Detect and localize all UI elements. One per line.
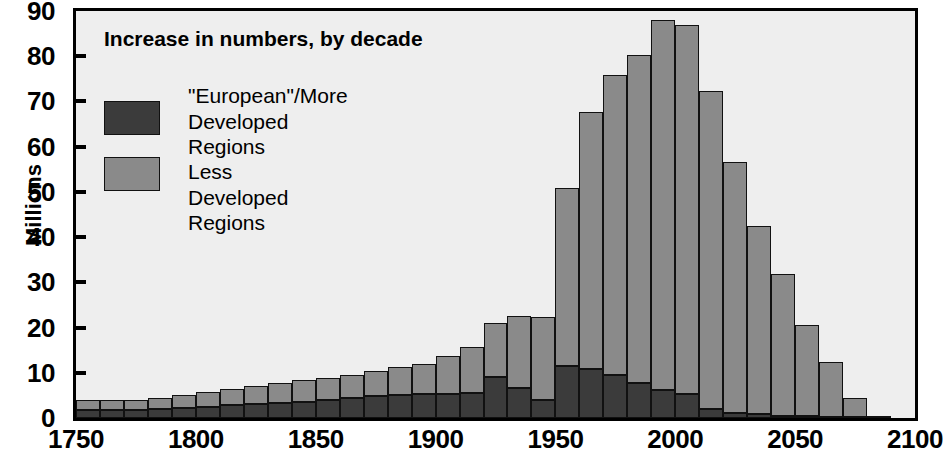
bar-segment-less-developed	[579, 112, 603, 369]
bar-segment-more-developed	[507, 388, 531, 418]
bar-1860	[340, 11, 364, 418]
bar-1960	[579, 11, 603, 418]
bar-segment-more-developed	[148, 409, 172, 418]
bar-segment-less-developed	[220, 389, 244, 406]
bar-segment-less-developed	[388, 367, 412, 394]
bar-1890	[412, 11, 436, 418]
bar-1770	[124, 11, 148, 418]
bar-segment-more-developed	[172, 408, 196, 418]
bar-segment-more-developed	[603, 375, 627, 418]
bar-1900	[436, 11, 460, 418]
y-axis-tick-label: 10	[27, 360, 55, 386]
bar-segment-more-developed	[268, 403, 292, 418]
bar-1880	[388, 11, 412, 418]
y-axis-tick-label: 70	[27, 88, 55, 114]
x-axis-tick-label: 2050	[767, 424, 823, 455]
bar-segment-more-developed	[555, 366, 579, 418]
legend-swatch-more-developed	[104, 101, 160, 135]
bar-segment-less-developed	[100, 400, 124, 409]
bar-2010	[699, 11, 723, 418]
bar-1840	[292, 11, 316, 418]
bar-2020	[723, 11, 747, 418]
bar-segment-less-developed	[699, 91, 723, 409]
bar-segment-less-developed	[316, 378, 340, 400]
y-axis-tick-mark	[73, 326, 86, 330]
bar-1780	[148, 11, 172, 418]
bar-1970	[603, 11, 627, 418]
y-axis-tick-label: 90	[27, 0, 55, 24]
bar-1920	[484, 11, 508, 418]
y-axis-tick-mark	[73, 190, 86, 194]
bar-segment-more-developed	[292, 402, 316, 418]
bar-segment-more-developed	[771, 416, 795, 418]
bar-segment-more-developed	[579, 369, 603, 418]
bar-2040	[771, 11, 795, 418]
bar-segment-less-developed	[531, 317, 555, 400]
bar-segment-less-developed	[460, 347, 484, 393]
bar-segment-less-developed	[268, 383, 292, 403]
legend-label-less-developed: Less Developed Regions	[188, 159, 288, 236]
x-axis-tick-label: 1750	[48, 424, 104, 455]
legend-swatch-less-developed	[104, 157, 160, 191]
bar-1870	[364, 11, 388, 418]
bar-segment-more-developed	[460, 393, 484, 418]
y-axis-title: Millions	[21, 135, 47, 275]
bar-segment-more-developed	[76, 410, 100, 418]
y-axis-tick-mark	[73, 54, 86, 58]
bar-segment-less-developed	[771, 274, 795, 416]
bar-2000	[675, 11, 699, 418]
x-axis-tick-label: 2100	[887, 424, 943, 455]
y-axis-tick-mark	[73, 235, 86, 239]
bar-segment-more-developed	[627, 383, 651, 418]
bar-segment-more-developed	[795, 416, 819, 418]
bar-segment-less-developed	[795, 325, 819, 416]
y-axis-tick-mark	[73, 145, 86, 149]
bar-segment-less-developed	[244, 386, 268, 404]
bar-segment-more-developed	[531, 400, 555, 418]
plot-area: Increase in numbers, by decade "European…	[73, 8, 918, 421]
bar-segment-less-developed	[76, 400, 100, 409]
bar-1760	[100, 11, 124, 418]
bar-2050	[795, 11, 819, 418]
bar-segment-less-developed	[819, 362, 843, 416]
bar-segment-more-developed	[699, 409, 723, 418]
bar-segment-less-developed	[627, 55, 651, 383]
bar-segment-less-developed	[651, 20, 675, 391]
bar-1980	[627, 11, 651, 418]
bar-segment-less-developed	[364, 371, 388, 396]
bar-segment-less-developed	[484, 323, 508, 377]
bar-segment-less-developed	[340, 375, 364, 399]
bar-segment-less-developed	[196, 392, 220, 406]
bar-segment-more-developed	[196, 407, 220, 418]
bar-2060	[819, 11, 843, 418]
bar-segment-more-developed	[651, 390, 675, 418]
bar-segment-more-developed	[316, 400, 340, 418]
legend-label-more-developed: "European"/More Developed Regions	[188, 83, 348, 160]
bar-1950	[555, 11, 579, 418]
x-axis-tick-label: 1950	[528, 424, 584, 455]
bar-segment-more-developed	[723, 413, 747, 418]
x-axis-tick-label: 1900	[408, 424, 464, 455]
bar-segment-more-developed	[412, 394, 436, 418]
bar-2080	[867, 11, 891, 418]
bar-segment-less-developed	[412, 364, 436, 394]
bar-segment-less-developed	[723, 162, 747, 413]
bar-segment-less-developed	[436, 356, 460, 394]
x-axis-tick-label: 2000	[647, 424, 703, 455]
bar-segment-more-developed	[244, 404, 268, 418]
y-axis-tick-mark	[73, 280, 86, 284]
bar-segment-more-developed	[220, 405, 244, 418]
y-axis-tick-mark	[73, 371, 86, 375]
x-axis-tick-label: 1850	[288, 424, 344, 455]
bar-segment-more-developed	[867, 416, 891, 418]
y-axis-tick-label: 20	[27, 315, 55, 341]
bar-segment-less-developed	[555, 188, 579, 365]
bar-segment-more-developed	[340, 398, 364, 418]
x-axis-tick-label: 1800	[168, 424, 224, 455]
bar-1990	[651, 11, 675, 418]
y-axis-tick-label: 80	[27, 43, 55, 69]
bar-1930	[507, 11, 531, 418]
y-axis-tick-mark	[73, 99, 86, 103]
bar-segment-more-developed	[675, 394, 699, 418]
